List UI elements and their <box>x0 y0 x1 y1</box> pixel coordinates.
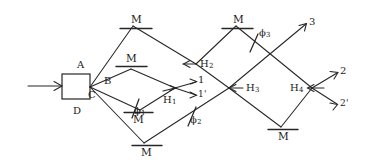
phi3-letter: ϕ <box>259 27 266 38</box>
beam-H4-out-2-prime <box>312 88 337 104</box>
beam-label-C: C <box>88 90 96 100</box>
mirror-label-top-left: M <box>131 14 142 25</box>
beam-B-to-H1 <box>131 69 175 88</box>
beam-label-D: D <box>73 106 81 116</box>
phase-shifter-label-phi1: ϕ1 <box>134 106 146 117</box>
H1-letter: H <box>163 94 172 105</box>
output-label-3: 3 <box>309 17 316 27</box>
phi2-index: 2 <box>197 118 202 126</box>
interferometer-diagram: A B C D M M M M M M H1 H2 H3 H4 ϕ1 ϕ2 ϕ3… <box>0 0 369 164</box>
mirror-label-mid-left: M <box>126 53 137 64</box>
H4-index: 4 <box>299 86 304 94</box>
phase-shifter-label-phi3: ϕ3 <box>259 28 271 39</box>
beamsplitter-label-H3: H3 <box>246 83 260 94</box>
H3-letter: H <box>246 82 255 93</box>
phi2-letter: ϕ <box>190 114 197 125</box>
H2-index: 2 <box>209 62 214 70</box>
output-label-2-prime: 2' <box>340 99 349 108</box>
H4-letter: H <box>290 82 299 93</box>
out-2-prime-arrowhead <box>330 103 338 110</box>
output-label-1-prime: 1' <box>198 90 207 99</box>
beam-D-to-H3 <box>144 88 229 143</box>
mirror-label-bottom: M <box>141 147 152 158</box>
beam-label-B: B <box>104 76 112 86</box>
beam-H4-out-2 <box>312 73 337 88</box>
beam-A-to-H2 <box>133 26 196 64</box>
H3-index: 3 <box>255 86 260 94</box>
H1-index: 1 <box>172 98 177 106</box>
out-1-prime-arrowhead <box>190 92 197 98</box>
beam-C <box>90 87 140 110</box>
output-label-2: 2 <box>340 66 347 76</box>
H2-letter: H <box>200 58 209 69</box>
output-label-1: 1 <box>198 75 205 85</box>
beam-M-top-right-down <box>236 26 312 88</box>
phase-shifter-label-phi2: ϕ2 <box>190 115 202 126</box>
beamsplitter-label-H2: H2 <box>200 59 214 70</box>
source-box <box>62 74 90 99</box>
mirror-label-top-right: M <box>233 14 244 25</box>
beam-label-A: A <box>77 60 84 70</box>
mirror-label-bottom-right: M <box>278 131 289 142</box>
phi1-letter: ϕ <box>134 105 141 116</box>
beamsplitter-label-H1: H1 <box>163 95 177 106</box>
out-1-arrowhead <box>190 79 197 84</box>
phi3-index: 3 <box>266 31 271 39</box>
phi1-index: 1 <box>141 109 146 117</box>
beamsplitter-label-H4: H4 <box>290 83 304 94</box>
